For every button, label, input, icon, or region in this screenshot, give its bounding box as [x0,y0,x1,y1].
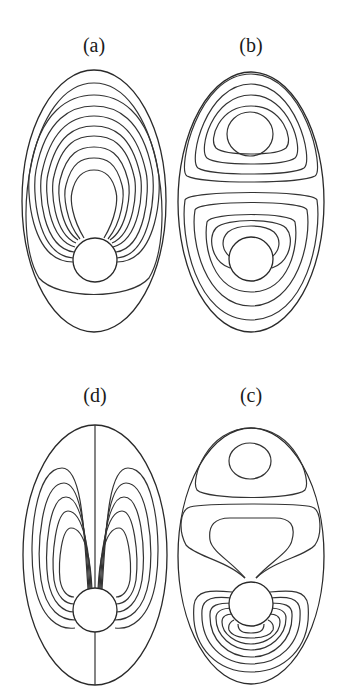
panel-d-label: (d) [83,384,106,407]
panel-b-sphere [229,237,273,281]
panel-c-sphere [229,582,273,626]
panel-c-boundary [178,428,324,684]
panel-b-upper-cell [185,74,318,182]
panel-c-upper-cell [195,428,306,498]
panel-d-sphere [73,588,117,632]
panel-a-label: (a) [83,34,105,57]
panel-d: (d) [23,384,167,685]
panel-b: (b) [178,34,324,332]
panel-b-label: (b) [239,34,262,57]
figure-canvas: (a) (b) [0,0,340,698]
panel-a-sphere [73,238,117,282]
panel-a: (a) [22,34,166,332]
panel-c-middle-region [181,504,320,578]
panel-c: (c) [178,384,324,684]
panel-c-label: (c) [240,384,262,407]
panel-a-boundary [22,70,166,332]
